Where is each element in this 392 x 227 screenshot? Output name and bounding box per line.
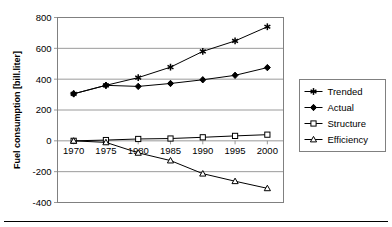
- x-tick-label: 1990: [192, 145, 213, 156]
- y-tick-label: 0: [46, 135, 51, 146]
- data-point: [200, 135, 205, 140]
- x-tick-label: 1985: [160, 145, 181, 156]
- data-point: [136, 136, 141, 141]
- legend-item-label: Structure: [328, 118, 367, 129]
- fuel-consumption-line-chart: -400-2000200400600800 197019751980198519…: [0, 0, 392, 227]
- chart-legend: TrendedActualStructureEfficiency: [300, 80, 386, 152]
- y-tick-label: 800: [36, 12, 52, 23]
- x-tick-label: 1975: [95, 145, 116, 156]
- legend-sample-marker: [311, 121, 316, 126]
- data-point: [232, 133, 237, 138]
- data-point: [168, 136, 173, 141]
- x-tick-label: 2000: [257, 145, 278, 156]
- y-axis-title: Fuel consumption [bill.liter]: [12, 51, 22, 169]
- legend-item-label: Actual: [328, 102, 354, 113]
- chart-figure: -400-2000200400600800 197019751980198519…: [0, 0, 392, 227]
- x-tick-label: 1970: [63, 145, 84, 156]
- x-tick-label: 1995: [225, 145, 246, 156]
- data-point: [265, 132, 270, 137]
- y-tick-label: 600: [36, 43, 52, 54]
- y-tick-label: 400: [36, 74, 52, 85]
- legend-item-label: Trended: [328, 86, 363, 97]
- y-tick-label: -400: [32, 197, 51, 208]
- y-tick-label: -200: [32, 166, 51, 177]
- y-tick-label: 200: [36, 104, 52, 115]
- legend-item-label: Efficiency: [328, 134, 369, 145]
